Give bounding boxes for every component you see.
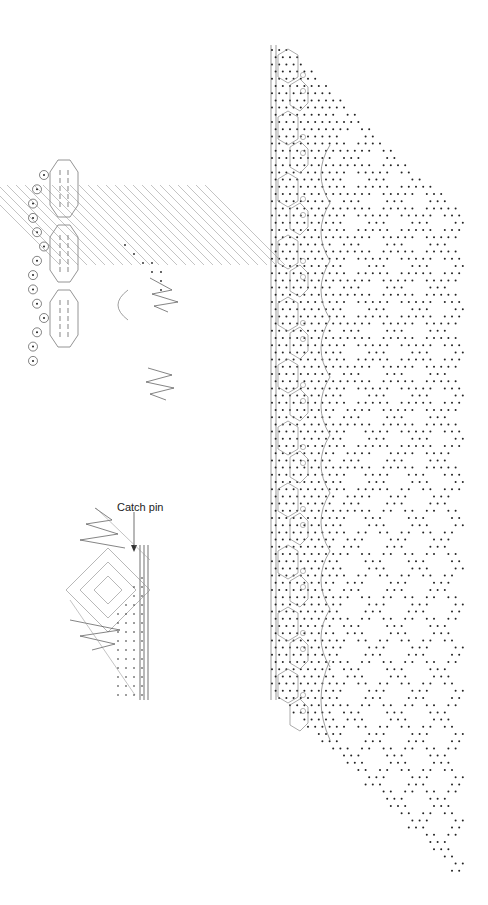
catch-pin-label: Catch pin (117, 501, 163, 513)
lace-diagram-canvas (0, 0, 488, 905)
catch-pin-arrow-icon (131, 545, 137, 552)
